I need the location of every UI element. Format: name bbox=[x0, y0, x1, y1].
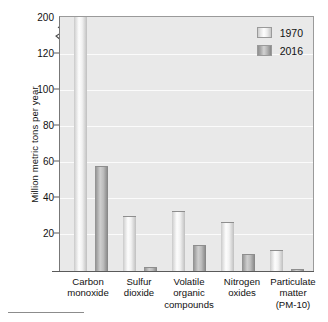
bar-sulfur-dioxide-1970 bbox=[123, 216, 136, 272]
y-tick-label-120: 120 bbox=[28, 48, 54, 59]
bar-volatile-organic-compounds-2016 bbox=[193, 245, 206, 272]
bar-nitrogen-oxides-2016 bbox=[242, 254, 255, 272]
plot-area: 1970 2016 bbox=[59, 16, 314, 272]
bar-carbon-monoxide-2016 bbox=[95, 166, 108, 272]
gridline-80 bbox=[60, 126, 313, 127]
bar-volatile-organic-compounds-1970 bbox=[172, 211, 185, 272]
y-tick-label-100: 100 bbox=[28, 84, 54, 95]
source-separator-rule bbox=[8, 312, 84, 313]
y-tick-label-60: 60 bbox=[28, 156, 54, 167]
legend-label-2016: 2016 bbox=[280, 45, 303, 57]
y-tick-label-200: 200 bbox=[28, 12, 54, 23]
x-axis-category-labels: Carbon monoxide Sulfur dioxide Volatile … bbox=[59, 276, 317, 322]
chart-legend: 1970 2016 bbox=[255, 23, 307, 63]
x-label-volatile-organic-compounds-line3: compounds bbox=[156, 299, 222, 310]
legend-swatch-2016-icon bbox=[257, 45, 272, 56]
gridline-60 bbox=[60, 162, 313, 163]
y-axis-ticks: 200 120 100 80 60 40 20 bbox=[25, 0, 54, 322]
bar-chart-figure: Million metric tons per year 200 120 100… bbox=[0, 0, 328, 322]
bar-nitrogen-oxides-1970 bbox=[221, 222, 234, 272]
legend-swatch-1970-icon bbox=[257, 27, 272, 38]
legend-label-1970: 1970 bbox=[280, 27, 303, 39]
bar-particulate-matter-1970 bbox=[270, 250, 283, 272]
bar-carbon-monoxide-1970 bbox=[74, 16, 87, 272]
x-label-particulate-matter-line2: matter bbox=[260, 287, 326, 298]
x-label-particulate-matter-line3: (PM-10) bbox=[260, 299, 326, 310]
y-tick-label-40: 40 bbox=[28, 192, 54, 203]
legend-entry-1970: 1970 bbox=[257, 25, 303, 40]
legend-entry-2016: 2016 bbox=[257, 43, 303, 58]
gridline-100 bbox=[60, 90, 313, 91]
x-label-particulate-matter: Particulate matter (PM-10) bbox=[260, 276, 326, 310]
y-tick-label-80: 80 bbox=[28, 120, 54, 131]
x-axis-line bbox=[52, 271, 314, 272]
y-tick-label-20: 20 bbox=[28, 228, 54, 239]
x-label-particulate-matter-line1: Particulate bbox=[260, 276, 326, 287]
